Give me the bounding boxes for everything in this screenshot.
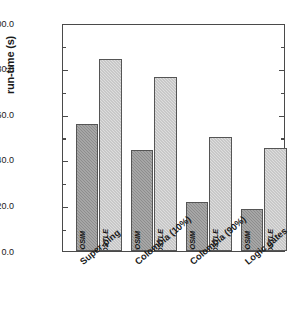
bar-label: MOOSIM xyxy=(188,231,197,251)
bar-label: MOOSIM xyxy=(78,231,87,251)
minor-tick-right xyxy=(281,47,284,48)
y-tick-label: 40.0 xyxy=(0,156,14,165)
minor-tick-left xyxy=(63,184,66,185)
major-tick-left xyxy=(63,70,68,71)
plot-area: MOOSIMAPOSTLEMOOSIMAPOSTLEMOOSIMAPOSTLEM… xyxy=(62,24,285,252)
bar-chart-figure: run-time (s) 100.080.060.040.020.00.0 MO… xyxy=(0,0,301,332)
bar-colombia-10-moosim: MOOSIM xyxy=(131,150,154,251)
minor-tick-right xyxy=(281,93,284,94)
bar-label-wrap: MOOSIM xyxy=(132,200,153,246)
minor-tick-left xyxy=(63,47,66,48)
minor-tick-left xyxy=(63,138,66,139)
y-tick-label: 0.0 xyxy=(0,248,14,257)
bar-label: MOOSIM xyxy=(133,231,142,251)
minor-tick-left xyxy=(63,230,66,231)
bar-label-wrap: MOOSIM xyxy=(242,209,263,246)
major-tick-left xyxy=(63,116,68,117)
major-tick-right xyxy=(279,116,284,117)
major-tick-left xyxy=(63,207,68,208)
major-tick-left xyxy=(63,161,68,162)
major-tick-right xyxy=(279,70,284,71)
y-tick-label: 100.0 xyxy=(0,20,14,29)
minor-tick-left xyxy=(63,93,66,94)
bar-label-wrap: MOOSIM xyxy=(77,200,98,246)
y-tick-label: 80.0 xyxy=(0,65,14,74)
y-tick-label: 20.0 xyxy=(0,202,14,211)
minor-tick-right xyxy=(281,138,284,139)
bar-label: MOOSIM xyxy=(243,231,252,251)
y-tick-label: 60.0 xyxy=(0,111,14,120)
bar-super-ping-moosim: MOOSIM xyxy=(76,124,99,251)
bar-super-ping-apostle: APOSTLE xyxy=(99,59,122,251)
